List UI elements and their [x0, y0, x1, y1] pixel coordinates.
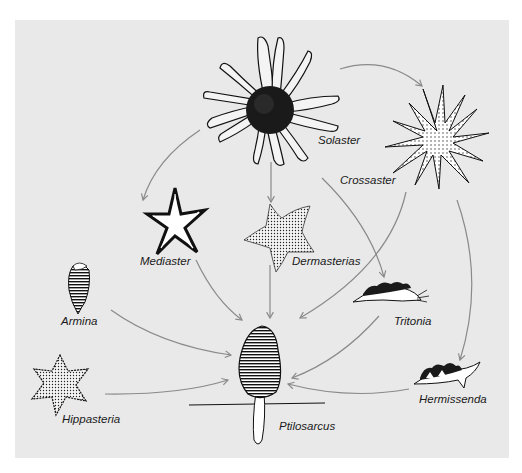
label-solaster: Solaster: [318, 134, 360, 146]
armina-icon: [69, 263, 90, 314]
hermissenda-icon: [414, 362, 480, 388]
arrow-hippasteria-ptilosarcus: [105, 380, 228, 394]
label-hermissenda: Hermissenda: [419, 393, 487, 405]
solaster-icon: [204, 37, 340, 165]
arrow-solaster-mediaster: [143, 130, 200, 200]
label-armina: Armina: [61, 315, 97, 327]
label-dermasterias: Dermasterias: [292, 255, 360, 267]
arrow-solaster-crossaster: [340, 65, 422, 86]
arrow-hermissenda-ptilosarcus: [288, 384, 409, 393]
arrow-crossaster-hermissenda: [457, 200, 472, 360]
label-ptilosarcus: Ptilosarcus: [279, 420, 335, 432]
mediaster-icon: [147, 188, 205, 254]
crossaster-icon: [385, 85, 489, 189]
label-tritonia: Tritonia: [394, 315, 432, 327]
hippasteria-icon: [32, 355, 88, 415]
arrow-mediaster-ptilosarcus: [196, 260, 242, 320]
label-hippasteria: Hippasteria: [62, 413, 120, 425]
label-crossaster: Crossaster: [340, 174, 396, 186]
arrow-armina-ptilosarcus: [111, 310, 231, 355]
label-mediaster: Mediaster: [140, 255, 191, 267]
tritonia-icon: [353, 282, 429, 302]
arrow-tritonia-ptilosarcus: [292, 316, 379, 378]
